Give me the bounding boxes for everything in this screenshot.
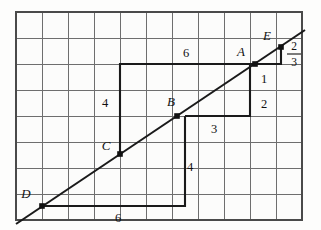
point-d-marker	[39, 203, 45, 209]
point-a-marker	[252, 61, 258, 67]
point-label-b: B	[167, 94, 175, 109]
point-label-c: C	[102, 138, 111, 153]
measurement-rise-med: 2	[261, 97, 267, 111]
point-label-a: A	[236, 44, 245, 59]
point-c-marker	[117, 151, 123, 157]
measurement-run-bottom: 6	[115, 211, 121, 225]
measurement-run-big: 6	[183, 46, 189, 60]
point-e-marker	[278, 44, 284, 50]
point-b-marker	[174, 113, 180, 119]
measurement-run-med: 3	[211, 122, 217, 136]
measurement-rise-bottom: 4	[187, 160, 194, 174]
figure-container: A B C D E 6 4 1 2 3 4 6 2 3	[0, 0, 321, 230]
fraction-denominator: 3	[291, 56, 297, 68]
measurement-rise-big: 4	[102, 96, 109, 110]
slope-triangle-figure: A B C D E 6 4 1 2 3 4 6 2 3	[0, 0, 321, 230]
point-label-e: E	[262, 28, 271, 43]
point-label-d: D	[20, 186, 31, 201]
fraction-numerator: 2	[291, 40, 297, 52]
measurement-rise-small-1: 1	[261, 72, 267, 86]
